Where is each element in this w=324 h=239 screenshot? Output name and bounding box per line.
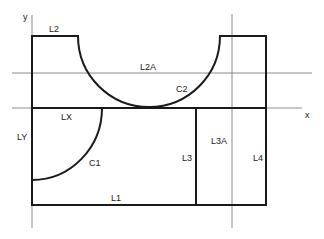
y-axis-label: y [23, 12, 28, 22]
label-l1: L1 [111, 193, 121, 203]
label-l3a: L3A [211, 136, 227, 146]
label-l2: L2 [49, 24, 59, 34]
x-axis-label: x [305, 110, 310, 120]
label-lx: LX [61, 112, 72, 122]
label-l3: L3 [182, 153, 192, 163]
label-l2a: L2A [140, 62, 156, 72]
label-ly: LY [17, 132, 27, 142]
geometry-diagram: y x L2 L2A C2 LX LY C1 L1 L3 L3A L4 [0, 0, 324, 239]
label-c1: C1 [89, 158, 101, 168]
label-c2: C2 [176, 84, 188, 94]
label-l4: L4 [253, 153, 263, 163]
